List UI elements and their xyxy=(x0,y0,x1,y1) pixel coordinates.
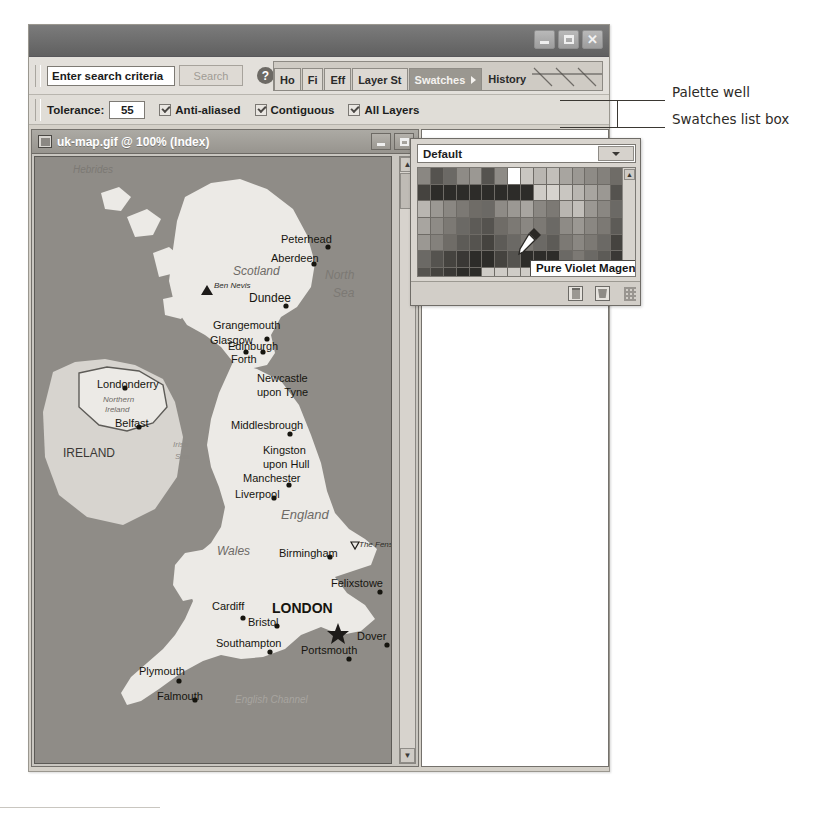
swatch-cell[interactable] xyxy=(573,168,585,184)
document-canvas[interactable]: PeterheadAberdeenDundeeGrangemouthGlasgo… xyxy=(34,156,392,764)
swatch-cell[interactable] xyxy=(560,168,572,184)
contiguous-checkbox[interactable] xyxy=(255,104,267,116)
all-layers-option[interactable]: All Layers xyxy=(348,104,419,116)
swatch-cell[interactable] xyxy=(431,185,443,201)
swatch-cell[interactable] xyxy=(495,218,507,234)
swatch-cell[interactable] xyxy=(457,185,469,201)
swatch-cell[interactable] xyxy=(598,235,610,251)
swatch-cell[interactable] xyxy=(457,268,469,277)
swatch-cell[interactable] xyxy=(444,201,456,217)
swatch-cell[interactable] xyxy=(418,235,430,251)
swatch-cell[interactable] xyxy=(470,168,482,184)
tab-effects[interactable]: Eff xyxy=(324,68,351,90)
swatch-cell[interactable] xyxy=(470,201,482,217)
swatch-cell[interactable] xyxy=(457,218,469,234)
swatch-cell[interactable] xyxy=(495,251,507,267)
swatch-cell[interactable] xyxy=(482,235,494,251)
trash-icon[interactable] xyxy=(595,286,610,301)
swatch-cell[interactable] xyxy=(495,268,507,277)
swatch-cell[interactable] xyxy=(547,185,559,201)
swatch-cell[interactable] xyxy=(585,218,597,234)
tab-history[interactable]: History xyxy=(483,68,531,90)
swatch-cell[interactable] xyxy=(482,168,494,184)
swatch-cell[interactable] xyxy=(444,268,456,277)
swatch-cell[interactable] xyxy=(534,168,546,184)
swatch-cell[interactable] xyxy=(508,201,520,217)
palette-well[interactable]: Ho Fi Eff Layer St Swatches History xyxy=(273,61,603,91)
swatch-cell[interactable] xyxy=(418,268,430,277)
help-icon[interactable]: ? xyxy=(257,67,274,84)
swatch-cell[interactable] xyxy=(598,201,610,217)
swatch-cell[interactable] xyxy=(521,168,533,184)
tab-how-to[interactable]: Ho xyxy=(274,68,301,90)
swatch-cell[interactable] xyxy=(482,185,494,201)
swatch-cell[interactable] xyxy=(585,185,597,201)
swatch-cell[interactable] xyxy=(482,201,494,217)
swatch-cell[interactable] xyxy=(508,268,520,277)
swatch-cell[interactable] xyxy=(585,201,597,217)
swatch-cell[interactable] xyxy=(457,235,469,251)
document-minimize-button[interactable] xyxy=(371,133,391,150)
swatch-cell[interactable] xyxy=(585,235,597,251)
swatch-cell[interactable] xyxy=(431,268,443,277)
swatches-grid-container[interactable]: Pure Violet Magenta ▲ ▼ xyxy=(417,167,636,277)
swatch-cell[interactable] xyxy=(573,218,585,234)
scroll-down-icon[interactable]: ▼ xyxy=(400,748,415,763)
contiguous-option[interactable]: Contiguous xyxy=(255,104,335,116)
swatch-cell[interactable] xyxy=(560,235,572,251)
swatch-cell[interactable] xyxy=(534,185,546,201)
swatch-cell[interactable] xyxy=(598,218,610,234)
swatch-cell[interactable] xyxy=(418,185,430,201)
swatch-cell[interactable] xyxy=(431,235,443,251)
swatch-cell[interactable] xyxy=(418,168,430,184)
swatch-cell[interactable] xyxy=(431,251,443,267)
swatch-cell[interactable] xyxy=(470,185,482,201)
close-button[interactable]: ✕ xyxy=(582,30,603,49)
anti-aliased-option[interactable]: Anti-aliased xyxy=(159,104,240,116)
swatches-listbox-dropdown-button[interactable] xyxy=(598,146,634,161)
swatch-cell[interactable] xyxy=(482,218,494,234)
swatch-cell[interactable] xyxy=(470,251,482,267)
swatch-cell[interactable] xyxy=(470,218,482,234)
new-swatch-icon[interactable] xyxy=(568,286,583,301)
swatch-cell[interactable] xyxy=(457,168,469,184)
swatch-cell[interactable] xyxy=(547,201,559,217)
swatch-cell[interactable] xyxy=(560,218,572,234)
swatch-cell[interactable] xyxy=(418,201,430,217)
swatch-cell[interactable] xyxy=(598,185,610,201)
swatch-cell[interactable] xyxy=(573,185,585,201)
all-layers-checkbox[interactable] xyxy=(348,104,360,116)
search-button[interactable]: Search xyxy=(179,65,243,86)
swatch-cell[interactable] xyxy=(547,168,559,184)
swatch-cell[interactable] xyxy=(560,201,572,217)
swatch-cell[interactable] xyxy=(573,235,585,251)
swatch-cell[interactable] xyxy=(418,218,430,234)
tolerance-input[interactable]: 55 xyxy=(109,101,145,119)
swatch-cell[interactable] xyxy=(444,168,456,184)
swatch-cell[interactable] xyxy=(560,185,572,201)
swatch-cell[interactable] xyxy=(470,235,482,251)
swatch-cell[interactable] xyxy=(431,168,443,184)
swatch-cell[interactable] xyxy=(573,201,585,217)
swatch-cell[interactable] xyxy=(444,235,456,251)
swatch-cell[interactable] xyxy=(547,218,559,234)
swatch-cell[interactable] xyxy=(457,201,469,217)
swatch-cell[interactable] xyxy=(508,185,520,201)
search-input[interactable]: Enter search criteria xyxy=(47,66,175,86)
swatch-cell[interactable] xyxy=(495,235,507,251)
tab-filters[interactable]: Fi xyxy=(302,68,324,90)
swatch-cell[interactable] xyxy=(521,185,533,201)
swatch-cell[interactable] xyxy=(431,201,443,217)
swatch-cell[interactable] xyxy=(534,201,546,217)
maximize-button[interactable] xyxy=(558,30,579,49)
anti-aliased-checkbox[interactable] xyxy=(159,104,171,116)
swatch-cell[interactable] xyxy=(482,268,494,277)
swatches-list-box[interactable]: Default xyxy=(417,144,636,163)
swatch-cell[interactable] xyxy=(470,268,482,277)
swatch-cell[interactable] xyxy=(482,251,494,267)
swatch-cell[interactable] xyxy=(508,168,520,184)
swatch-cell[interactable] xyxy=(418,251,430,267)
swatch-cell[interactable] xyxy=(444,218,456,234)
swatch-cell[interactable] xyxy=(495,201,507,217)
swatch-cell[interactable] xyxy=(495,168,507,184)
